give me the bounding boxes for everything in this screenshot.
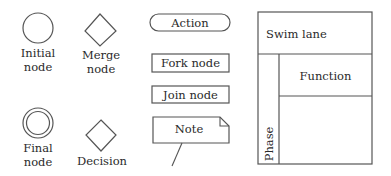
action-label: Action bbox=[150, 16, 230, 30]
swimlane-function-label: Function bbox=[279, 69, 372, 83]
final-node-label-line2: node bbox=[18, 155, 58, 169]
final-node-outer bbox=[23, 108, 53, 138]
fork-node-label: Fork node bbox=[152, 56, 229, 70]
initial-node-shape bbox=[23, 13, 53, 43]
final-node-inner bbox=[27, 112, 50, 135]
initial-node-label-line1: Initial bbox=[18, 46, 58, 60]
merge-node-label-line1: Merge bbox=[80, 48, 122, 62]
merge-node-label: Merge node bbox=[80, 48, 122, 76]
final-node-label: Final node bbox=[18, 141, 58, 169]
merge-node-shape bbox=[85, 14, 116, 46]
initial-node-label: Initial node bbox=[18, 46, 58, 74]
swimlane-title: Swim lane bbox=[266, 27, 327, 41]
initial-node-label-line2: node bbox=[18, 60, 58, 74]
final-node-label-line1: Final bbox=[18, 141, 58, 155]
merge-node-label-line2: node bbox=[80, 62, 122, 76]
join-node-label: Join node bbox=[152, 88, 229, 102]
note-label: Note bbox=[153, 122, 225, 136]
note-connector-line bbox=[172, 143, 182, 166]
decision-label: Decision bbox=[76, 154, 128, 168]
decision-shape bbox=[86, 120, 116, 151]
swimlane-phase-label: Phase bbox=[262, 124, 276, 164]
